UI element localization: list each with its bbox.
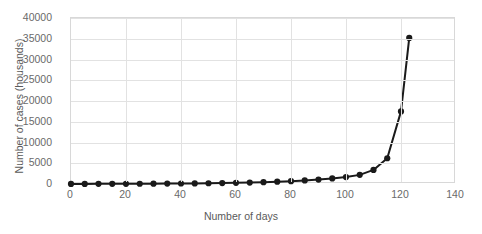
data-point-marker: [260, 179, 266, 185]
gridline-horizontal: [71, 101, 454, 102]
gridline-vertical: [181, 18, 182, 182]
gridline-horizontal: [71, 80, 454, 81]
gridline-horizontal: [71, 18, 454, 19]
gridline-horizontal: [71, 143, 454, 144]
gridline-vertical: [401, 18, 402, 182]
data-point-marker: [95, 181, 101, 187]
data-point-marker: [384, 155, 390, 161]
data-point-marker: [164, 181, 170, 187]
data-point-marker: [302, 177, 308, 183]
gridline-vertical: [236, 18, 237, 182]
gridline-horizontal: [71, 39, 454, 40]
y-axis-tick-label: 25000: [0, 73, 52, 85]
data-point-marker: [370, 167, 376, 173]
plot-area: [70, 17, 455, 183]
y-axis-title: Number of cases (housands): [13, 11, 25, 201]
data-point-marker: [82, 181, 88, 187]
exponential-growth-chart: 0500010000150002000025000300003500040000…: [0, 0, 482, 234]
y-axis-tick-label: 15000: [0, 115, 52, 127]
data-point-marker: [329, 175, 335, 181]
x-axis-tick-label: 40: [160, 188, 200, 200]
data-point-marker: [205, 180, 211, 186]
data-point-marker: [274, 179, 280, 185]
data-point-marker: [150, 181, 156, 187]
y-axis-tick-label: 0: [0, 177, 52, 189]
x-axis-tick-label: 100: [325, 188, 365, 200]
y-axis-tick-label: 10000: [0, 136, 52, 148]
data-point-marker: [68, 181, 74, 187]
gridline-vertical: [346, 18, 347, 182]
y-axis-tick-label: 20000: [0, 94, 52, 106]
y-axis-tick-label: 35000: [0, 32, 52, 44]
data-point-marker: [192, 180, 198, 186]
x-axis-tick-label: 120: [380, 188, 420, 200]
data-point-marker: [247, 179, 253, 185]
gridline-horizontal: [71, 122, 454, 123]
x-axis-tick-label: 0: [50, 188, 90, 200]
gridline-vertical: [291, 18, 292, 182]
data-point-marker: [109, 181, 115, 187]
x-axis-title: Number of days: [0, 210, 482, 222]
data-point-marker: [219, 180, 225, 186]
x-axis-tick-label: 140: [435, 188, 475, 200]
y-axis-tick-label: 30000: [0, 53, 52, 65]
x-axis-tick-label: 60: [215, 188, 255, 200]
gridline-horizontal: [71, 60, 454, 61]
y-axis-tick-label: 40000: [0, 11, 52, 23]
gridline-vertical: [126, 18, 127, 182]
data-point-marker: [357, 172, 363, 178]
data-point-marker: [315, 176, 321, 182]
gridline-horizontal: [71, 163, 454, 164]
y-axis-tick-label: 5000: [0, 156, 52, 168]
x-axis-tick-label: 20: [105, 188, 145, 200]
x-axis-tick-label: 80: [270, 188, 310, 200]
data-point-marker: [137, 181, 143, 187]
